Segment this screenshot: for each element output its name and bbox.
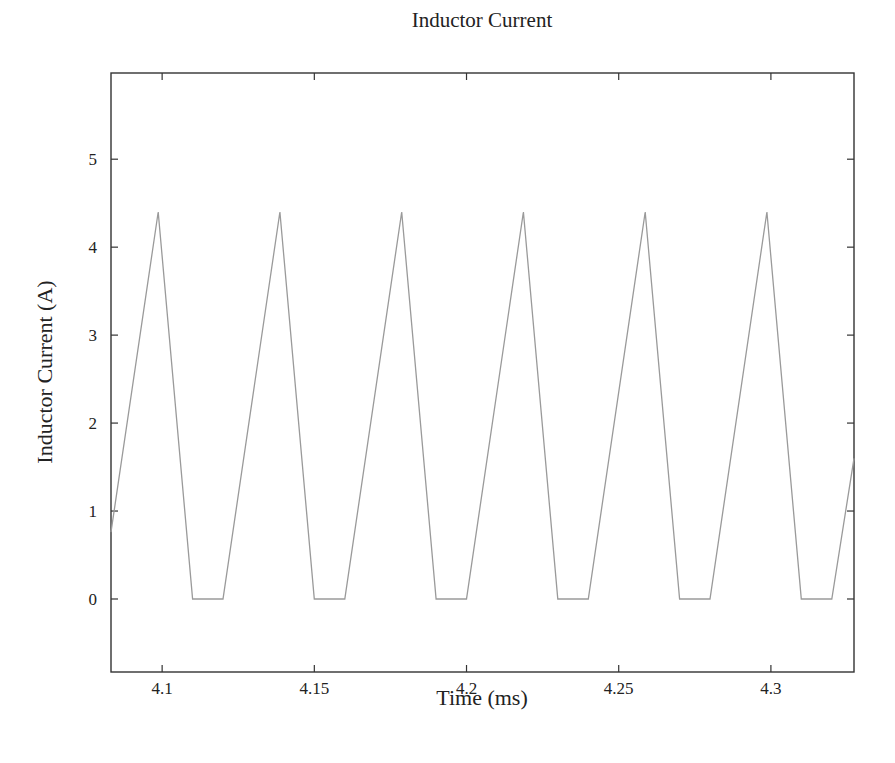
x-tick-label: 4.3 — [760, 679, 781, 698]
plot-area: 4.14.154.24.254.3 012345 — [89, 73, 855, 698]
y-axis-ticks: 012345 — [89, 150, 855, 609]
y-tick-label: 1 — [89, 502, 98, 521]
x-axis-ticks: 4.14.154.24.254.3 — [152, 73, 782, 698]
plot-frame — [111, 73, 854, 672]
x-axis-label: Time (ms) — [436, 685, 527, 710]
inductor-current-line — [111, 212, 854, 599]
x-tick-label: 4.15 — [299, 679, 329, 698]
x-tick-label: 4.1 — [152, 679, 173, 698]
y-tick-label: 0 — [89, 590, 98, 609]
y-tick-label: 4 — [89, 238, 98, 257]
chart: Inductor Current 4.14.154.24.254.3 01234… — [0, 0, 895, 763]
x-tick-label: 4.25 — [604, 679, 634, 698]
chart-title: Inductor Current — [412, 8, 553, 32]
y-tick-label: 2 — [89, 414, 98, 433]
y-tick-label: 3 — [89, 326, 98, 345]
y-axis-label: Inductor Current (A) — [32, 280, 57, 463]
y-tick-label: 5 — [89, 150, 98, 169]
